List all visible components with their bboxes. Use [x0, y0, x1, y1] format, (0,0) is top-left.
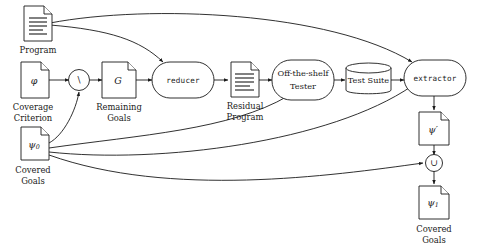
edge-psi0-to-union	[49, 155, 423, 180]
node-extractor[interactable]: extractor	[404, 60, 466, 96]
remaining-goals-caption-line1: Remaining	[96, 102, 142, 112]
criterion-caption-line2: Criterion	[14, 113, 53, 123]
criterion-caption-line1: Coverage	[13, 102, 53, 112]
node-coverage-criterion[interactable]: φ Coverage Criterion	[13, 62, 53, 123]
node-residual-program[interactable]: Residual Program	[227, 62, 264, 122]
criterion-doc-fold	[41, 62, 49, 70]
residual-caption-line2: Program	[227, 112, 264, 122]
program-caption: Program	[20, 45, 57, 55]
node-covered-goals-0[interactable]: ψ0 Covered Goals	[15, 127, 51, 186]
residual-doc-fold	[251, 62, 259, 70]
test-suite-cylinder-top	[346, 63, 391, 73]
psi-prime-symbol: ψ′	[428, 124, 438, 135]
node-setminus-operator[interactable]: \	[69, 70, 90, 91]
node-test-suite[interactable]: Test Suite	[346, 63, 391, 94]
diagram-canvas: Program φ Coverage Criterion ψ0 Covered …	[0, 0, 485, 251]
residual-caption-line1: Residual	[227, 101, 264, 111]
remaining-goals-symbol: G	[114, 75, 122, 86]
reducer-label: reducer	[166, 76, 200, 85]
tester-shape	[272, 60, 334, 100]
node-covered-goals-1[interactable]: ψ1 Covered Goals	[416, 186, 452, 245]
psi0-caption-line1: Covered	[15, 165, 51, 175]
flow-diagram: Program φ Coverage Criterion ψ0 Covered …	[0, 0, 485, 251]
test-suite-label: Test Suite	[348, 75, 390, 85]
node-remaining-goals[interactable]: G Remaining Goals	[96, 62, 142, 123]
extractor-label: extractor	[414, 74, 457, 83]
tester-label-line1: Off-the-shelf	[277, 68, 329, 78]
psi0-caption-line2: Goals	[21, 176, 45, 186]
edge-program-to-extractor	[50, 14, 412, 62]
node-tester[interactable]: Off-the-shelf Tester	[272, 60, 334, 100]
edge-layer	[49, 14, 434, 184]
node-reducer[interactable]: reducer	[152, 62, 214, 98]
criterion-symbol: φ	[31, 75, 38, 86]
node-union-operator[interactable]: ∪	[426, 155, 443, 172]
edge-psi0-to-setminus	[49, 92, 79, 143]
union-symbol: ∪	[430, 158, 438, 168]
node-program[interactable]: Program	[20, 6, 57, 55]
remaining-goals-doc-fold	[128, 62, 136, 70]
psi1-caption-line1: Covered	[416, 224, 452, 234]
node-psi-prime[interactable]: ψ′	[419, 112, 449, 145]
remaining-goals-caption-line2: Goals	[107, 113, 131, 123]
tester-label-line2: Tester	[290, 81, 316, 91]
edge-program-to-reducer	[50, 25, 163, 62]
psi1-caption-line2: Goals	[422, 235, 446, 245]
